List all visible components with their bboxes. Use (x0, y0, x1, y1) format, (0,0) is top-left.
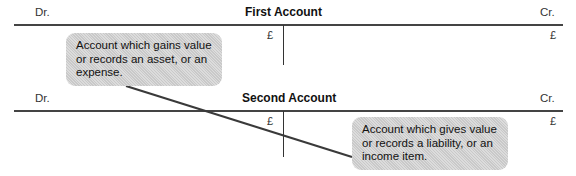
second-account-credit-currency: £ (550, 115, 556, 127)
second-account-debit-label: Dr. (35, 92, 50, 104)
first-account-vertical-rule (283, 25, 284, 65)
second-account-credit-label: Cr. (540, 92, 555, 104)
first-account-credit-label: Cr. (540, 6, 555, 18)
first-account-debit-currency: £ (267, 29, 273, 41)
second-account-vertical-rule (283, 111, 284, 157)
first-account-debit-label: Dr. (35, 6, 50, 18)
second-account-debit-currency: £ (267, 115, 273, 127)
first-account-credit-currency: £ (550, 29, 556, 41)
first-account-title: First Account (245, 5, 322, 19)
first-account-horizontal-rule (14, 24, 563, 26)
second-account-title: Second Account (242, 91, 336, 105)
credit-callout: Account which gives value or records a l… (352, 117, 508, 170)
debit-callout: Account which gains value or records an … (66, 33, 222, 86)
second-account-horizontal-rule (14, 110, 563, 112)
